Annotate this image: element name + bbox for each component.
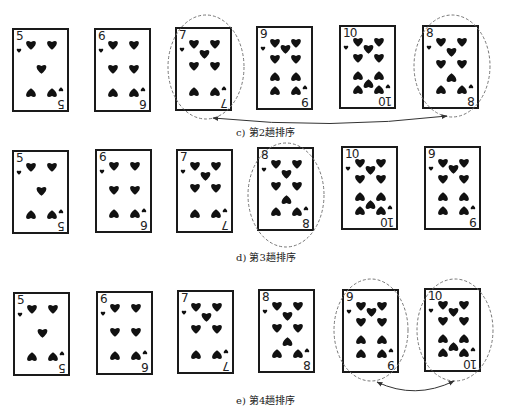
card-r3-c1: 5 5 xyxy=(13,292,70,376)
card-r3-c2: 6 6 xyxy=(96,291,153,375)
card-r3-c4: 8 8 xyxy=(258,289,315,373)
rank-label: 10 xyxy=(428,290,441,302)
rank-label-inverted: 8 xyxy=(304,359,311,371)
swap-arrow-pass-2 xyxy=(213,116,447,124)
rank-label-inverted: 9 xyxy=(302,96,309,108)
rank-label-inverted: 7 xyxy=(221,97,228,109)
rank-label: 5 xyxy=(17,294,24,306)
rank-label-inverted: 10 xyxy=(379,95,392,107)
card-r1-c2: 6 6 xyxy=(94,28,151,112)
card-r3-c3: 7 7 xyxy=(177,290,234,374)
card-r1-c1: 5 5 xyxy=(12,28,69,112)
rank-label: 5 xyxy=(16,30,23,42)
card-r2-c5: 10 10 xyxy=(341,146,398,230)
rank-label-inverted: 7 xyxy=(222,219,229,231)
card-r1-c4: 9 9 xyxy=(256,26,313,110)
rank-label: 7 xyxy=(181,292,188,304)
rank-label-inverted: 10 xyxy=(464,358,477,370)
card-r1-c3: 7 7 xyxy=(175,27,232,111)
card-r1-c6: 8 8 xyxy=(422,25,479,109)
rank-label-inverted: 6 xyxy=(141,219,148,231)
card-r2-c3: 7 7 xyxy=(176,149,233,233)
rank-label: 9 xyxy=(428,148,435,160)
rank-label-inverted: 9 xyxy=(388,359,395,371)
card-r3-c6: 10 10 xyxy=(424,288,481,372)
card-r2-c4: 8 8 xyxy=(257,147,314,231)
rank-label: 7 xyxy=(179,29,186,41)
caption-pass-2: c) 第2趟排序 xyxy=(236,124,295,139)
rank-label-inverted: 5 xyxy=(58,98,65,110)
card-r2-c2: 6 6 xyxy=(95,149,152,233)
card-r2-c1: 5 5 xyxy=(12,150,69,234)
caption-pass-4: e) 第4趟排序 xyxy=(236,392,295,407)
card-r3-c5: 9 9 xyxy=(342,289,399,373)
selection-sort-figure: 5 5 6 6 7 7 9 9 10 10 8 8 c) 第2趟排序 5 5 xyxy=(0,0,508,415)
rank-label-inverted: 9 xyxy=(470,216,477,228)
rank-label: 7 xyxy=(180,151,187,163)
rank-label: 8 xyxy=(261,149,268,161)
rank-label-inverted: 7 xyxy=(223,360,230,372)
swap-arrow-pass-4 xyxy=(377,381,454,391)
rank-label-inverted: 10 xyxy=(381,216,394,228)
rank-label: 9 xyxy=(346,291,353,303)
rank-label-inverted: 8 xyxy=(303,217,310,229)
rank-label-inverted: 5 xyxy=(58,220,65,232)
rank-label: 10 xyxy=(345,148,358,160)
rank-label-inverted: 6 xyxy=(140,98,147,110)
rank-label: 5 xyxy=(16,152,23,164)
rank-label-inverted: 6 xyxy=(142,361,149,373)
rank-label: 6 xyxy=(98,30,105,42)
rank-label: 10 xyxy=(343,27,356,39)
card-r1-c5: 10 10 xyxy=(339,25,396,109)
rank-label: 8 xyxy=(262,291,269,303)
rank-label: 8 xyxy=(426,27,433,39)
rank-label-inverted: 5 xyxy=(59,362,66,374)
rank-label: 6 xyxy=(100,293,107,305)
rank-label: 6 xyxy=(99,151,106,163)
rank-label-inverted: 8 xyxy=(468,95,475,107)
caption-pass-3: d) 第3趟排序 xyxy=(236,249,296,264)
card-r2-c6: 9 9 xyxy=(424,146,481,230)
rank-label: 9 xyxy=(260,28,267,40)
